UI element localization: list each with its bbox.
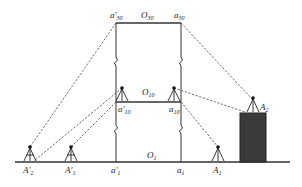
- label-a10-prime: a′10: [118, 104, 130, 115]
- sightline-A2-a30: [181, 23, 252, 99]
- label-a10: a10: [169, 104, 180, 115]
- sightline-A1-a10: [181, 102, 218, 147]
- label-A2-prime: A′2: [22, 165, 33, 176]
- tripod-A1-prime: [65, 145, 77, 161]
- label-a1: a1: [177, 165, 185, 176]
- label-a1-prime: a′1: [111, 165, 120, 176]
- right-column-line: [180, 23, 183, 162]
- building: [240, 113, 266, 162]
- tripod-A1: [212, 145, 224, 161]
- tripod-a10: [168, 86, 180, 101]
- sightline-A2-station: [174, 88, 245, 112]
- label-A1-prime: A′1: [64, 165, 75, 176]
- sightline-A2p-a30p: [30, 23, 116, 147]
- survey-diagram: a′30 O30 a30 O10 a′10 a10 O1 A′2 A′1 a′1…: [0, 0, 302, 187]
- label-A1: A1: [212, 165, 222, 176]
- left-column-line: [115, 23, 118, 162]
- sightline-A2p-a10p: [34, 88, 122, 161]
- label-O10: O10: [142, 87, 155, 98]
- label-O1: O1: [147, 150, 157, 161]
- tripod-A2: [247, 96, 259, 112]
- label-O30: O30: [141, 10, 154, 21]
- tripod-A2-prime: [24, 145, 36, 161]
- label-a30: a30: [174, 10, 185, 21]
- label-A2: A2: [259, 102, 269, 113]
- tripod-a10-prime: [116, 86, 128, 101]
- label-a30-prime: a′30: [110, 10, 122, 21]
